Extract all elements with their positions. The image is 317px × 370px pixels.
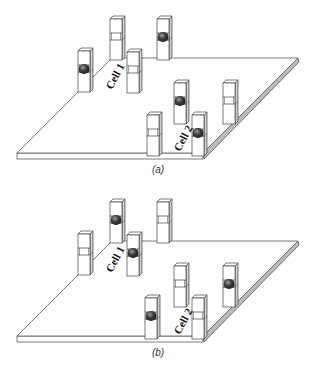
pillar-p7-empty [147, 112, 162, 156]
pillar-p6-with-particle [223, 263, 238, 307]
panel-a: Cell 1Cell 2(a) [17, 16, 299, 175]
pillar-p4-with-particle [157, 16, 172, 60]
pillar-p4-empty [157, 199, 172, 243]
panel-caption-a: (a) [152, 164, 164, 175]
pillar-p1-empty [78, 231, 93, 275]
pillar-p2-empty [110, 16, 125, 60]
particle-icon [175, 96, 186, 106]
particle-icon [128, 248, 139, 258]
pillar-p2-with-particle [110, 199, 125, 243]
pillar-p8-with-particle [192, 112, 207, 156]
particle-icon [111, 215, 122, 225]
pillar-p3-empty [127, 49, 142, 93]
pillar-p6-empty [223, 80, 238, 124]
particle-icon [158, 32, 169, 42]
panel-b: Cell 1Cell 2(b) [17, 199, 299, 358]
figure-canvas: Cell 1Cell 2(a) Cell 1Cell 2(b) [0, 0, 317, 370]
particle-icon [79, 64, 90, 74]
panel-caption-b: (b) [152, 347, 164, 358]
particle-icon [224, 279, 235, 289]
particle-icon [146, 311, 157, 321]
pillar-p7-with-particle [145, 295, 160, 339]
pillar-p3-with-particle [127, 232, 142, 276]
pillar-p5-empty [174, 263, 189, 307]
pillar-p5-with-particle [174, 80, 189, 124]
pillar-p8-empty [192, 295, 207, 339]
pillar-p1-with-particle [78, 48, 93, 92]
